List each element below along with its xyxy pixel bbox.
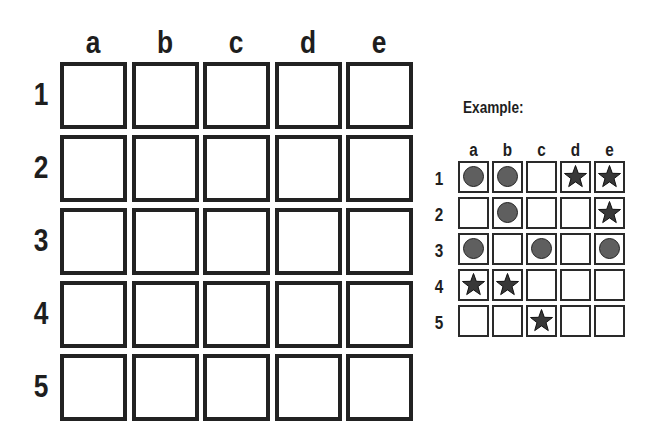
row-label-5: 5 [28,370,54,404]
circle-icon [599,238,620,259]
grid-cell-e3[interactable] [346,208,413,275]
row-label-4: 4 [28,297,54,331]
example-row-label-2: 2 [432,205,446,225]
example-cell-c1 [526,161,557,193]
grid-cell-e5[interactable] [346,354,413,421]
grid-cell-e4[interactable] [346,281,413,348]
example-column-label-d: d [562,140,588,160]
example-row-label-5: 5 [432,313,446,333]
example-cell-b4 [492,269,523,301]
example-cell-e5 [594,305,625,337]
example-cell-a3 [458,233,489,265]
grid-cell-c5[interactable] [203,354,270,421]
grid-cell-b5[interactable] [132,354,199,421]
example-cell-b5 [492,305,523,337]
grid-cell-c3[interactable] [203,208,270,275]
star-icon [597,200,622,225]
star-icon [461,272,486,297]
example-cell-a2 [458,197,489,229]
grid-cell-e2[interactable] [346,135,413,202]
grid-cell-e1[interactable] [346,62,413,129]
example-cell-a4 [458,269,489,301]
example-cell-c2 [526,197,557,229]
example-cell-d2 [560,197,591,229]
grid-cell-a4[interactable] [60,281,127,348]
circle-icon [497,166,518,187]
example-cell-d5 [560,305,591,337]
example-cell-e3 [594,233,625,265]
example-cell-a1 [458,161,489,193]
example-cell-e4 [594,269,625,301]
example-column-label-e: e [596,140,622,160]
example-column-label-a: a [460,140,486,160]
star-icon [495,272,520,297]
example-cell-b3 [492,233,523,265]
column-label-e: e [351,26,407,60]
row-label-3: 3 [28,224,54,258]
example-cell-e1 [594,161,625,193]
example-cell-b2 [492,197,523,229]
row-label-2: 2 [28,151,54,185]
grid-cell-d5[interactable] [275,354,342,421]
example-cell-b1 [492,161,523,193]
column-label-a: a [65,26,121,60]
star-icon [563,164,588,189]
grid-cell-c2[interactable] [203,135,270,202]
star-icon [529,308,554,333]
column-label-c: c [208,26,264,60]
example-cell-c3 [526,233,557,265]
circle-icon [497,202,518,223]
example-title: Example: [463,99,523,117]
grid-cell-b1[interactable] [132,62,199,129]
example-cell-d4 [560,269,591,301]
example-column-label-c: c [528,140,554,160]
grid-cell-d1[interactable] [275,62,342,129]
example-cell-c4 [526,269,557,301]
grid-cell-d4[interactable] [275,281,342,348]
column-label-d: d [279,26,335,60]
grid-cell-b3[interactable] [132,208,199,275]
grid-cell-c1[interactable] [203,62,270,129]
grid-cell-d3[interactable] [275,208,342,275]
grid-cell-c4[interactable] [203,281,270,348]
example-column-label-b: b [494,140,520,160]
grid-cell-b4[interactable] [132,281,199,348]
grid-cell-d2[interactable] [275,135,342,202]
grid-cell-a2[interactable] [60,135,127,202]
grid-cell-a5[interactable] [60,354,127,421]
example-row-label-3: 3 [432,241,446,261]
grid-cell-b2[interactable] [132,135,199,202]
example-cell-e2 [594,197,625,229]
circle-icon [463,166,484,187]
grid-cell-a3[interactable] [60,208,127,275]
circle-icon [531,238,552,259]
grid-cell-a1[interactable] [60,62,127,129]
example-cell-d1 [560,161,591,193]
row-label-1: 1 [28,78,54,112]
star-icon [597,164,622,189]
example-cell-c5 [526,305,557,337]
example-row-label-4: 4 [432,277,446,297]
example-cell-a5 [458,305,489,337]
example-cell-d3 [560,233,591,265]
circle-icon [463,238,484,259]
column-label-b: b [136,26,192,60]
example-row-label-1: 1 [432,169,446,189]
